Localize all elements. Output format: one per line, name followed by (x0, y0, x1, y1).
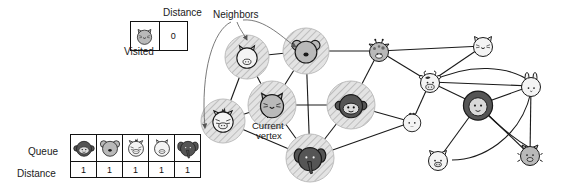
queue-cell-animal (71, 135, 96, 161)
giraffe-icon (365, 37, 393, 65)
graph-nodes (201, 28, 545, 182)
horse-icon (232, 42, 262, 72)
queue-cell-animal (174, 135, 200, 161)
graph-node-elephant[interactable] (286, 134, 334, 182)
graph-node-cat-tr[interactable] (469, 32, 497, 60)
queue-cell-animal (148, 135, 174, 161)
distance-row-label: Distance (17, 169, 56, 179)
graph-node-giraffe[interactable] (365, 37, 393, 65)
boar-icon (516, 141, 544, 169)
queue-cell-animal (96, 135, 122, 161)
cat-icon (255, 88, 289, 122)
chick-icon (399, 109, 425, 135)
lion-icon (461, 88, 495, 122)
cat-icon (469, 32, 497, 60)
current-vertex-label-line2: vertex (256, 131, 282, 141)
graph-edge (379, 46, 483, 51)
queue-cell-distance: 1 (122, 162, 148, 177)
queue-cell-distance: 1 (148, 162, 174, 177)
queue-cell-animal (122, 135, 148, 161)
graph-node-cow[interactable] (416, 68, 444, 96)
zebra-icon (208, 106, 238, 136)
graph-node-pig[interactable] (424, 146, 452, 174)
visited-table-caption: Visited (124, 47, 154, 57)
graph-node-koala[interactable] (283, 28, 329, 74)
queue-row-label: Queue (28, 147, 58, 157)
cow-icon (416, 68, 444, 96)
graph-node-rabbit[interactable] (517, 72, 545, 100)
graph-node-horse[interactable] (225, 35, 269, 79)
queue-table: 11111 (70, 134, 201, 178)
graph-node-boar[interactable] (516, 141, 544, 169)
queue-cell-distance: 1 (174, 162, 200, 177)
queue-cell-distance: 1 (96, 162, 122, 177)
graph-node-monkey[interactable] (327, 81, 375, 129)
neighbors-label: Neighbors (213, 10, 259, 20)
graph-node-zebra[interactable] (201, 99, 245, 143)
graph-edge-curved (430, 68, 531, 82)
visited-table-distance-header: Distance (163, 8, 202, 18)
monkey-icon (334, 88, 368, 122)
visited-cell-distance: 0 (160, 22, 188, 50)
graph-node-chick[interactable] (399, 109, 425, 135)
figure-root: Neighbors Current vertex 0 Distance Visi… (0, 0, 572, 193)
queue-cell-distance: 1 (71, 162, 96, 177)
rabbit-icon (517, 72, 545, 100)
graph-node-lion[interactable] (461, 88, 495, 122)
pig-icon (424, 146, 452, 174)
elephant-icon (293, 141, 327, 175)
koala-icon (290, 35, 322, 67)
graph-edge (430, 82, 531, 86)
